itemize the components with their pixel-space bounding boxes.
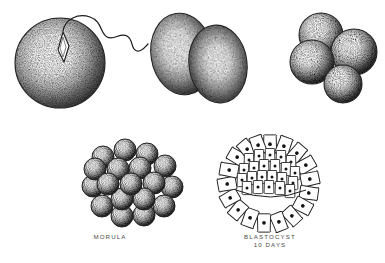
caption-blastocyst-age: 10 DAYS [230, 241, 310, 250]
ovum-body [15, 18, 105, 108]
figure-blastocyst-stage [216, 136, 324, 230]
morula-cell-cluster [82, 139, 183, 227]
inner-cell-mass [237, 149, 300, 198]
caption-morula: MORULA [75, 233, 145, 242]
embryology-illustration-plate: MORULA BLASTOCYST 10 DAYS [0, 0, 385, 263]
figure-morula-stage [80, 135, 198, 230]
figure-four-cell-stage [286, 8, 384, 108]
figure-two-cell-stage [138, 8, 258, 110]
blastomere-bottom [324, 65, 362, 103]
figure-fertilized-ovum [8, 6, 158, 111]
